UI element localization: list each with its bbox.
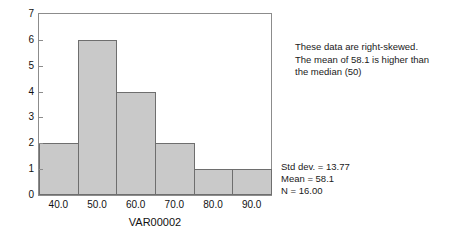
y-tick-label: 6	[2, 35, 34, 45]
histogram-figure: 01234567 40.050.060.070.080.090.0 VAR000…	[0, 0, 463, 250]
stat-n: N = 16.00	[281, 185, 411, 197]
y-tick-mark	[39, 66, 43, 67]
annotation-line-2: The mean of 58.1 is higher than	[295, 54, 460, 67]
x-tick-label: 40.0	[36, 199, 80, 210]
y-tick-label: 5	[2, 61, 34, 71]
annotation-line-3: the median (50)	[295, 66, 460, 79]
x-axis: 40.050.060.070.080.090.0	[0, 199, 300, 215]
annotation-text: These data are right-skewed. The mean of…	[295, 41, 460, 79]
y-tick-label: 7	[2, 9, 34, 19]
stat-std-dev: Std dev. = 13.77	[281, 161, 411, 173]
x-tick-label: 90.0	[230, 199, 274, 210]
histogram-bar	[39, 143, 79, 195]
y-tick-mark	[39, 169, 43, 170]
stat-mean: Mean = 58.1	[281, 173, 411, 185]
plot-area	[39, 14, 271, 195]
histogram-bar	[194, 169, 234, 195]
histogram-bar	[78, 40, 118, 195]
y-tick-label: 4	[2, 87, 34, 97]
x-tick-label: 80.0	[191, 199, 235, 210]
annotation-line-1: These data are right-skewed.	[295, 41, 460, 54]
histogram-bar	[155, 143, 195, 195]
x-tick-label: 50.0	[75, 199, 119, 210]
x-tick-label: 70.0	[152, 199, 196, 210]
y-tick-label: 1	[2, 164, 34, 174]
statistics-text: Std dev. = 13.77 Mean = 58.1 N = 16.00	[281, 161, 411, 197]
y-tick-label: 2	[2, 138, 34, 148]
y-tick-mark	[39, 143, 43, 144]
x-tick-label: 60.0	[114, 199, 158, 210]
histogram-bar	[116, 92, 156, 195]
y-tick-mark	[39, 117, 43, 118]
y-tick-mark	[39, 92, 43, 93]
x-axis-title: VAR00002	[39, 216, 271, 228]
histogram-bar	[232, 169, 272, 195]
y-tick-mark	[39, 40, 43, 41]
y-tick-label: 3	[2, 112, 34, 122]
